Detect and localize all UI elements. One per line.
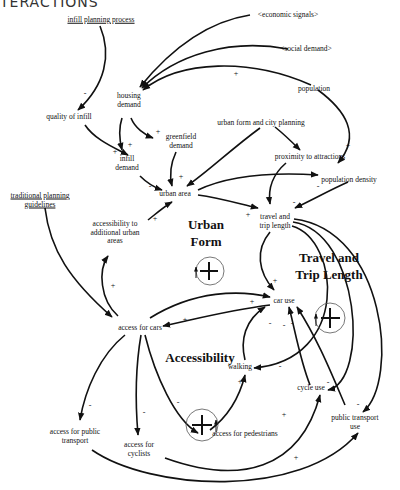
link-housing-greenfield [131, 118, 153, 138]
polarity-mark: - [291, 319, 294, 328]
polarity-mark: - [327, 378, 330, 387]
loop-label-urban-form: Urban Form [181, 216, 231, 250]
polarity-mark: - [149, 182, 152, 191]
node-housing-demand: housing demand [111, 92, 147, 109]
polarity-mark: + [238, 377, 243, 386]
polarity-mark: - [177, 398, 180, 407]
polarity-mark: + [246, 210, 251, 219]
polarity-mark: - [269, 319, 272, 328]
loop-label-accessibility: Accessibility [165, 349, 234, 366]
node-population-density: population density [321, 176, 377, 185]
polarity-mark: - [293, 198, 296, 207]
polarity-mark: + [111, 281, 116, 290]
polarity-mark: + [273, 276, 278, 285]
link-urban-travel [198, 195, 258, 208]
node-social-demand: <social demand> [280, 45, 332, 54]
link-population-housing [143, 66, 311, 90]
node-proximity-to-attractions: proximity to attractions [275, 153, 345, 162]
polarity-mark: - [84, 89, 87, 98]
polarity-mark: - [279, 362, 282, 371]
node-access-for-pedestrians: access for pedestrians [212, 430, 277, 439]
node-access-for-cars: access for cars [118, 324, 162, 333]
polarity-mark: - [357, 400, 360, 409]
link-ufcp-proximity [275, 127, 300, 150]
link-cars-cyclists [136, 335, 141, 435]
node-urban-form-city-planning: urban form and city planning [217, 119, 304, 128]
polarity-mark: + [156, 127, 161, 136]
node-travel-trip-length: travel and trip length [255, 213, 295, 230]
polarity-mark: + [250, 297, 255, 306]
polarity-mark: - [283, 321, 286, 330]
node-population: population [298, 85, 330, 94]
node-greenfield-demand: greenfield demand [159, 133, 203, 150]
node-traditional-planning-guidelines: traditional planning guidelines [4, 192, 76, 209]
link-walking-caruse [243, 307, 265, 360]
node-infill-planning-process: infill planning process [67, 16, 134, 25]
link-cars-publicaccess [80, 335, 125, 420]
link-accessibility-urban [148, 202, 172, 220]
polarity-mark: + [234, 69, 239, 78]
link-greenfield-urban [171, 152, 176, 186]
node-car-use: car use [273, 297, 294, 306]
loop-label-travel-trip-length: Travel and Trip Length [289, 249, 369, 283]
node-cycle-use: cycle use [297, 384, 325, 393]
link-housing-infill [120, 118, 122, 150]
polarity-mark: + [113, 147, 118, 156]
polarity-mark: + [183, 315, 188, 324]
polarity-mark: + [346, 141, 351, 150]
node-access-for-public-transport: access for public transport [47, 428, 103, 445]
node-infill-demand: infill demand [110, 155, 144, 172]
link-proximity-travel [270, 163, 286, 204]
node-access-for-cyclists: access for cyclists [121, 441, 157, 458]
polarity-mark: + [179, 172, 184, 181]
node-accessibility-additional-urban-areas: accessibility to additional urban areas [85, 220, 145, 246]
polarity-mark: + [128, 140, 133, 149]
node-economic-signals: <economic signals> [258, 11, 318, 20]
link-quality-infill [85, 125, 128, 155]
polarity-mark: + [294, 453, 299, 462]
link-infill-planning-quality [78, 26, 106, 110]
link-density-travel [295, 182, 348, 208]
node-urban-area: urban area [159, 190, 190, 199]
polarity-mark: + [153, 214, 158, 223]
node-public-transport-use: public transport use [327, 414, 383, 431]
link-travel-cycle [293, 222, 353, 390]
polarity-mark: - [317, 182, 320, 191]
polarity-mark: - [89, 401, 92, 410]
polarity-mark: - [143, 408, 146, 417]
node-quality-of-infill: quality of infill [46, 113, 91, 122]
polarity-mark: + [282, 410, 287, 419]
link-urban-density [198, 174, 318, 190]
